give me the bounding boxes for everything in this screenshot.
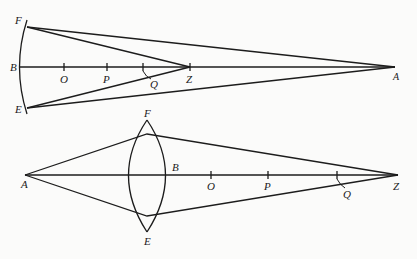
label-O-bottom: O (207, 180, 215, 192)
label-F-bottom: F (143, 107, 151, 119)
label-Q-bottom: Q (343, 188, 351, 200)
label-E-bottom: E (143, 235, 151, 247)
ray-E-A (27, 67, 395, 108)
lens-figure: F E A B O P Q Z (20, 107, 400, 247)
label-B-bottom: B (172, 161, 179, 173)
label-Z-bottom: Z (393, 180, 400, 192)
label-P-top: P (102, 73, 110, 85)
label-O-top: O (60, 73, 68, 85)
label-E-top: E (14, 103, 22, 115)
ray-F-A (27, 27, 395, 67)
mirror-figure: F B E O P Q Z A (10, 14, 400, 115)
ray-F-Z (27, 27, 190, 67)
label-Q-top: Q (150, 78, 158, 90)
label-F-top: F (14, 14, 22, 26)
label-A-bottom: A (20, 178, 28, 190)
label-Z-top: Z (186, 73, 193, 85)
optics-diagram: F B E O P Q Z A F E A B O P Q (0, 0, 417, 259)
label-P-bottom: P (263, 180, 271, 192)
diagram-svg: F B E O P Q Z A F E A B O P Q (0, 0, 417, 259)
label-B-top: B (10, 61, 17, 73)
label-A-top: A (392, 71, 400, 82)
ray-upper (25, 134, 398, 175)
